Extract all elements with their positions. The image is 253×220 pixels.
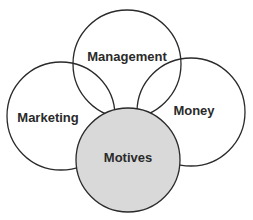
venn-diagram: Management Marketing Money Motives [0,0,253,220]
money-label: Money [173,103,215,118]
management-label: Management [87,49,167,64]
marketing-label: Marketing [17,110,78,125]
management-circle [73,10,181,118]
motives-label: Motives [104,150,152,165]
